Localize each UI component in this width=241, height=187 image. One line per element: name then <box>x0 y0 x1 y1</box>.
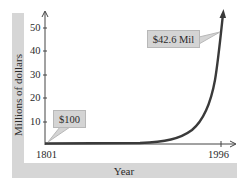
curve-arrow-icon <box>220 9 227 18</box>
plot-area <box>0 0 241 187</box>
callout-end-value: $42.6 Mil <box>147 30 200 48</box>
callout-start-value: $100 <box>53 110 86 128</box>
